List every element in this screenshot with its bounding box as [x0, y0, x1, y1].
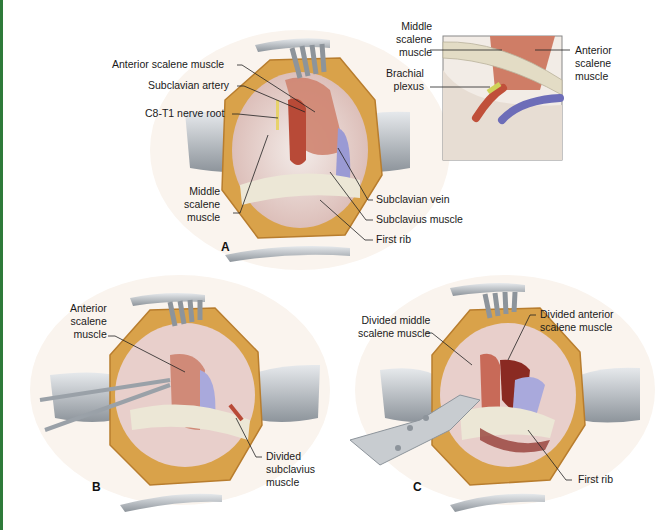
inset-panel: Middle scalene muscle Brachial plexus An… — [0, 0, 656, 170]
panel-c: Divided middle scalene muscle Divided an… — [340, 280, 656, 530]
label-anterior-scalene-muscle-b: Anterior scalene muscle — [70, 302, 107, 341]
label-first-rib: First rib — [376, 233, 411, 246]
label-middle-scalene-muscle: Middle scalene muscle — [184, 185, 220, 224]
panel-b-illustration — [0, 280, 330, 530]
label-first-rib-c: First rib — [578, 473, 613, 486]
label-subclavius-muscle: Subclavius muscle — [376, 213, 463, 226]
panel-b: Anterior scalene muscle Divided subclavi… — [0, 280, 330, 530]
label-divided-anterior-scalene-muscle: Divided anterior scalene muscle — [540, 308, 614, 334]
inset-illustration — [0, 0, 656, 170]
inset-label-brachial-plexus: Brachial plexus — [386, 67, 424, 93]
label-subclavian-vein: Subclavian vein — [376, 193, 450, 206]
inset-label-anterior-scalene-muscle: Anterior scalene muscle — [575, 44, 612, 83]
panel-letter-a: A — [221, 240, 230, 254]
panel-letter-c: C — [413, 480, 422, 494]
label-divided-subclavius-muscle: Divided subclavius muscle — [266, 450, 315, 489]
panel-letter-b: B — [92, 480, 101, 494]
inset-label-middle-scalene-muscle: Middle scalene muscle — [396, 20, 432, 59]
label-divided-middle-scalene-muscle: Divided middle scalene muscle — [358, 314, 430, 340]
